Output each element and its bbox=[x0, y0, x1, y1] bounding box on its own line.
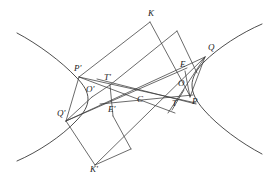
segment-oprime-tprime bbox=[92, 85, 110, 97]
label-p: P bbox=[191, 96, 198, 106]
segment-e-p bbox=[185, 71, 190, 97]
geometry-canvas: K Q E P' T' O O' C T P E' Q' K' bbox=[0, 0, 275, 184]
label-q: Q bbox=[208, 42, 215, 52]
label-p-prime: P' bbox=[73, 63, 82, 73]
label-t-prime: T' bbox=[104, 72, 112, 82]
label-k-prime: K' bbox=[89, 164, 99, 174]
left-hyperbola-branch bbox=[17, 33, 88, 161]
label-o-prime: O' bbox=[86, 84, 95, 94]
segment-pprime-k bbox=[79, 22, 150, 77]
label-c: C bbox=[137, 94, 144, 104]
label-e-prime: E' bbox=[107, 104, 116, 114]
segment-qprime-kprime bbox=[66, 121, 95, 165]
label-q-prime: Q' bbox=[57, 108, 66, 118]
right-hyperbola-branch bbox=[192, 24, 262, 154]
label-o: O bbox=[178, 78, 185, 88]
label-e: E bbox=[179, 59, 186, 69]
label-k: K bbox=[147, 8, 155, 18]
segment-lower-parallel-close bbox=[95, 149, 131, 165]
segment-pprime-qprime bbox=[66, 77, 79, 121]
hyperbola-curves bbox=[17, 24, 262, 161]
hyperbola-figure: K Q E P' T' O O' C T P E' Q' K' bbox=[0, 0, 275, 184]
